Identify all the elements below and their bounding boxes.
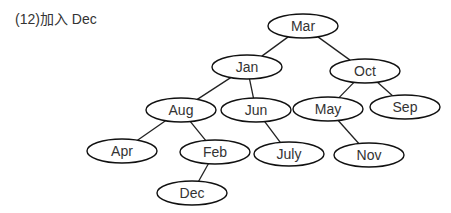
node-label: Oct	[354, 63, 376, 79]
edge-jun-july	[265, 122, 281, 143]
edge-feb-dec	[199, 164, 209, 181]
edge-oct-sep	[377, 82, 392, 96]
node-july: July	[254, 142, 324, 166]
edge-aug-apr	[137, 121, 165, 140]
node-aug: Aug	[146, 98, 216, 122]
edge-mar-oct	[318, 37, 350, 60]
node-label: Aug	[169, 102, 194, 118]
node-oct: Oct	[330, 59, 400, 83]
node-label: Nov	[357, 147, 382, 163]
edge-aug-feb	[190, 122, 205, 141]
node-jun: Jun	[221, 98, 291, 122]
node-dec: Dec	[157, 181, 227, 205]
edge-jan-jun	[250, 79, 254, 98]
node-label: Mar	[291, 18, 315, 34]
binary-search-tree: MarJanOctAugJunMaySepAprFebJulyNovDec	[0, 0, 451, 213]
node-label: Sep	[393, 99, 418, 115]
node-jan: Jan	[212, 55, 282, 79]
node-label: May	[315, 101, 341, 117]
node-label: Apr	[111, 143, 133, 159]
edge-oct-may	[339, 82, 354, 97]
node-apr: Apr	[87, 139, 157, 163]
edge-mar-jan	[262, 37, 288, 56]
node-label: Jun	[245, 102, 268, 118]
tree-nodes: MarJanOctAugJunMaySepAprFebJulyNovDec	[87, 14, 440, 205]
node-nov: Nov	[334, 143, 404, 167]
node-label: Jan	[236, 59, 259, 75]
node-mar: Mar	[268, 14, 338, 38]
node-feb: Feb	[180, 140, 250, 164]
node-may: May	[293, 97, 363, 121]
node-label: Dec	[180, 185, 205, 201]
node-label: July	[277, 146, 302, 162]
edge-jan-aug	[197, 78, 230, 100]
edge-may-nov	[338, 120, 359, 143]
node-sep: Sep	[370, 95, 440, 119]
node-label: Feb	[203, 144, 227, 160]
